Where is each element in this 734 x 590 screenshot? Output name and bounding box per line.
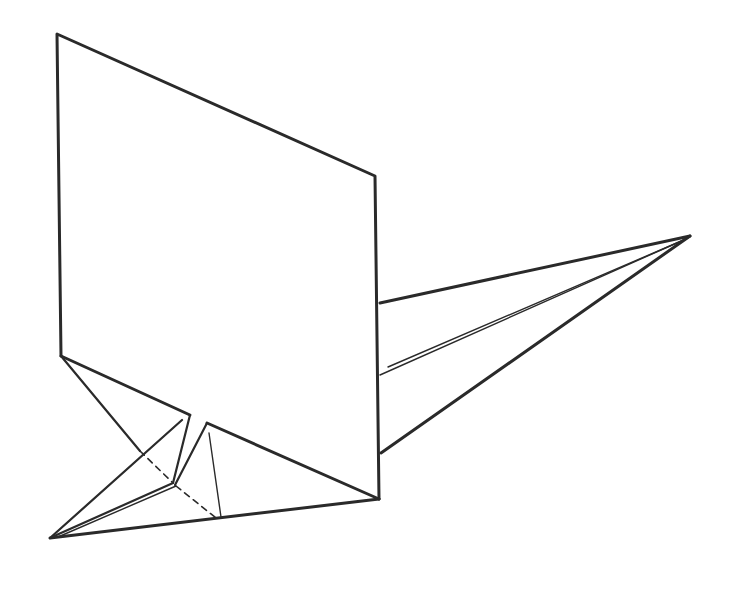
left-flap [50,356,379,538]
fold-drawing [0,0,734,590]
right-flap [380,236,690,453]
